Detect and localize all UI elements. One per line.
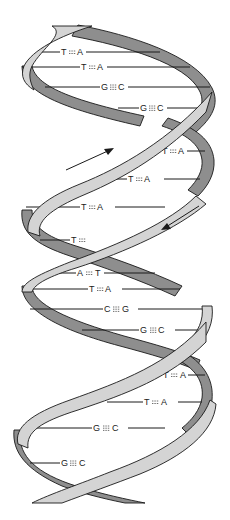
base-left: T [144,397,150,407]
base-left: T [128,174,134,184]
base-left: T [71,235,77,245]
base-right: C [157,103,164,113]
base-left: G [140,103,147,113]
base-right: C [118,82,125,92]
base-right: T [95,268,101,278]
base-pair-3: G C [45,82,210,92]
base-right: A [180,370,186,380]
base-left: A [77,268,83,278]
back-strand-segment-2 [22,66,144,126]
base-left: C [104,304,111,314]
base-right: A [97,62,103,72]
base-left: G [101,82,108,92]
base-left: G [93,423,100,433]
base-left: T [81,202,87,212]
base-pair-2: T A [22,62,190,72]
base-pair-16: G C [30,458,86,468]
base-right: C [112,423,119,433]
base-left: T [81,62,87,72]
base-left: T [61,47,67,57]
base-pair-15: G C [32,423,165,433]
base-right: A [105,284,111,294]
base-right: A [178,146,184,156]
base-pair-14: T A [107,397,202,407]
base-right: A [97,202,103,212]
base-right: A [161,397,167,407]
dna-double-helix-diagram: T A T A G C G C [0,0,230,520]
base-right: A [77,47,83,57]
base-right: A [144,174,150,184]
base-right: G [122,304,129,314]
base-right: C [79,458,86,468]
base-right: C [158,325,165,335]
base-pair-4: G C [118,103,200,113]
base-left: G [140,325,147,335]
base-left: T [89,284,95,294]
base-left: G [61,458,68,468]
arrow-up-right-icon [66,148,114,170]
